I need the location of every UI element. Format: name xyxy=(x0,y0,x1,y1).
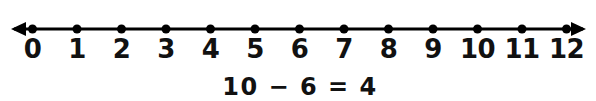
tick-dot[interactable] xyxy=(562,25,571,34)
number-line-worksheet: 0123456789101112 10 − 6 = 4 xyxy=(0,0,596,101)
tick-label: 4 xyxy=(202,34,220,64)
tick-label: 0 xyxy=(24,34,42,64)
tick-label: 7 xyxy=(335,34,353,64)
tick-label: 3 xyxy=(157,34,175,64)
tick-label: 9 xyxy=(424,34,442,64)
tick-dot[interactable] xyxy=(206,25,215,34)
tick-dot[interactable] xyxy=(73,25,82,34)
tick-dot[interactable] xyxy=(295,25,304,34)
tick-label: 5 xyxy=(246,34,264,64)
tick-dot[interactable] xyxy=(429,25,438,34)
tick-label: 6 xyxy=(291,34,309,64)
tick-dot[interactable] xyxy=(473,25,482,34)
tick-dot[interactable] xyxy=(251,25,260,34)
tick-dot[interactable] xyxy=(162,25,171,34)
tick-label: 11 xyxy=(504,34,539,64)
tick-label: 8 xyxy=(380,34,398,64)
tick-dot[interactable] xyxy=(384,25,393,34)
tick-label: 12 xyxy=(549,34,584,64)
tick-labels-group: 0123456789101112 xyxy=(24,34,584,64)
tick-label: 10 xyxy=(460,34,495,64)
tick-dot[interactable] xyxy=(117,25,126,34)
tick-dot[interactable] xyxy=(518,25,527,34)
tick-label: 1 xyxy=(68,34,86,64)
subtraction-equation: 10 − 6 = 4 xyxy=(222,73,377,101)
tick-label: 2 xyxy=(113,34,131,64)
tick-dot[interactable] xyxy=(28,25,37,34)
number-line-figure: 0123456789101112 10 − 6 = 4 xyxy=(0,0,596,101)
tick-dot[interactable] xyxy=(340,25,349,34)
